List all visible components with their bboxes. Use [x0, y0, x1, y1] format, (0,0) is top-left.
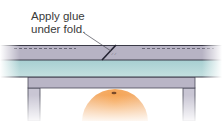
callout-line-2: under fold.: [31, 23, 85, 36]
glue-diagram: ✓✓ Apply glue under fold.: [0, 0, 222, 121]
callout-line-1: Apply glue: [31, 10, 85, 23]
callout-label: Apply glue under fold.: [31, 10, 85, 35]
